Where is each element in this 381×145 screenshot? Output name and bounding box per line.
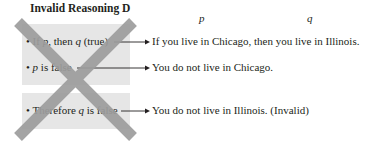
diagram-overlay [0, 0, 381, 145]
cross-out-icon [18, 22, 133, 137]
arrow-icon [121, 109, 150, 114]
